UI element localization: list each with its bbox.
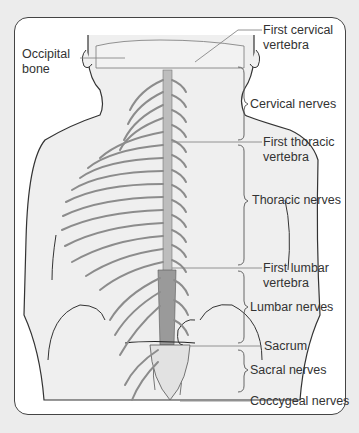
- label-sacrum: Sacrum: [264, 339, 307, 354]
- label-first-lumbar-vertebra: First lumbar vertebra: [263, 261, 329, 291]
- label-first-cervical-vertebra: First cervical vertebra: [263, 23, 333, 53]
- label-lumbar-nerves: Lumbar nerves: [250, 300, 333, 315]
- label-cervical-nerves: Cervical nerves: [250, 97, 336, 112]
- label-first-thoracic-vertebra: First thoracic vertebra: [263, 135, 335, 165]
- label-sacral-nerves: Sacral nerves: [250, 363, 326, 378]
- label-thoracic-nerves: Thoracic nerves: [252, 193, 341, 208]
- label-occipital-bone: Occipital bone: [22, 47, 70, 77]
- label-coccygeal-nerves: Coccygeal nerves: [250, 394, 349, 409]
